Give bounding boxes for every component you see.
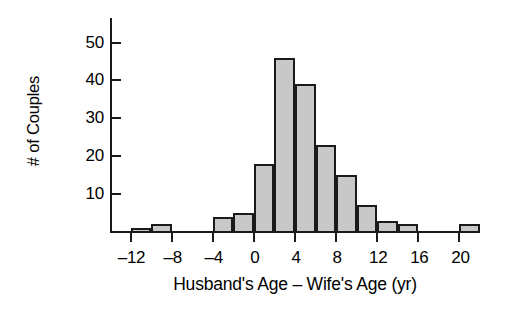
histogram-bar — [131, 228, 152, 233]
histogram-bar — [151, 224, 172, 233]
histogram-bar — [459, 224, 480, 233]
histogram-bar — [336, 175, 357, 233]
histogram-bar — [233, 213, 254, 233]
histogram-bar — [316, 145, 337, 233]
histogram-bar — [377, 221, 398, 233]
x-axis-title: Husband's Age – Wife's Age (yr) — [90, 274, 500, 294]
histogram-bar — [254, 164, 275, 233]
histogram-bar — [213, 217, 234, 233]
histogram-bar — [295, 84, 316, 233]
y-axis-title: # of Couples — [24, 46, 42, 196]
histogram-bar — [398, 224, 419, 233]
histogram-chart: 1020304050–12–8–4048121620 # of Couples … — [0, 0, 528, 322]
histogram-bar — [274, 58, 295, 233]
histogram-bar — [357, 205, 378, 233]
